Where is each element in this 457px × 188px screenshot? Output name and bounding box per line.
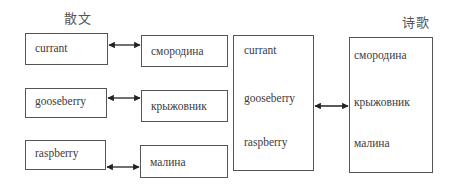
- arrows-layer: [0, 0, 457, 188]
